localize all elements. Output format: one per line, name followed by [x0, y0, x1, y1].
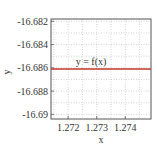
- x-tick-label: 1.272: [57, 122, 80, 133]
- y-tick-label: -16.688: [17, 86, 48, 97]
- x-tick-label: 1.274: [114, 122, 137, 133]
- y-tick-label: -16.686: [17, 62, 48, 73]
- line-chart: -16.682-16.684-16.686-16.688-16.69 1.272…: [0, 0, 157, 152]
- x-axis-label: x: [99, 134, 104, 145]
- series-annotation: y = f(x): [76, 56, 107, 68]
- y-axis-label: y: [1, 70, 12, 75]
- y-tick-label: -16.69: [22, 109, 48, 120]
- x-tick-label: 1.273: [85, 122, 108, 133]
- y-tick-label: -16.684: [17, 39, 48, 50]
- y-tick-label: -16.682: [17, 16, 48, 27]
- y-axis-ticks: -16.682-16.684-16.686-16.688-16.69: [17, 16, 54, 120]
